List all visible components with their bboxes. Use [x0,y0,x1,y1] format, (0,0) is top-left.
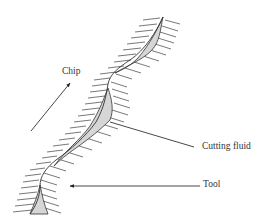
cutting-fluid-pockets [30,17,163,214]
cutting-fluid-label: Cutting fluid [202,141,251,151]
tool-label: Tool [203,179,220,189]
diagram-canvas [0,0,273,224]
chip-surface-hatching [13,18,160,212]
chip-direction-arrow [31,83,70,131]
cutting-fluid-leader-line [110,122,194,147]
chip-label: Chip [62,66,80,76]
